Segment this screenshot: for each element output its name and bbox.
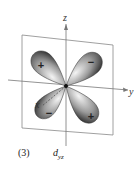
sign-upper-left: + <box>38 59 44 71</box>
sign-upper-right: − <box>88 56 94 68</box>
orbital-subscript: yz <box>58 153 64 161</box>
figure-number: (3) <box>18 147 30 158</box>
z-axis-label: z <box>62 12 67 23</box>
origin-dot <box>64 84 68 88</box>
x-axis-label: x <box>34 99 40 110</box>
sign-lower-left: − <box>46 107 52 119</box>
orbital-diagram: z y x + − − + <box>0 0 139 169</box>
z-axis-arrow <box>64 24 68 30</box>
y-axis-arrow <box>123 88 128 93</box>
y-axis-label: y <box>128 86 134 97</box>
sign-lower-right: + <box>88 110 94 122</box>
orbital-name: dyz <box>53 147 64 161</box>
